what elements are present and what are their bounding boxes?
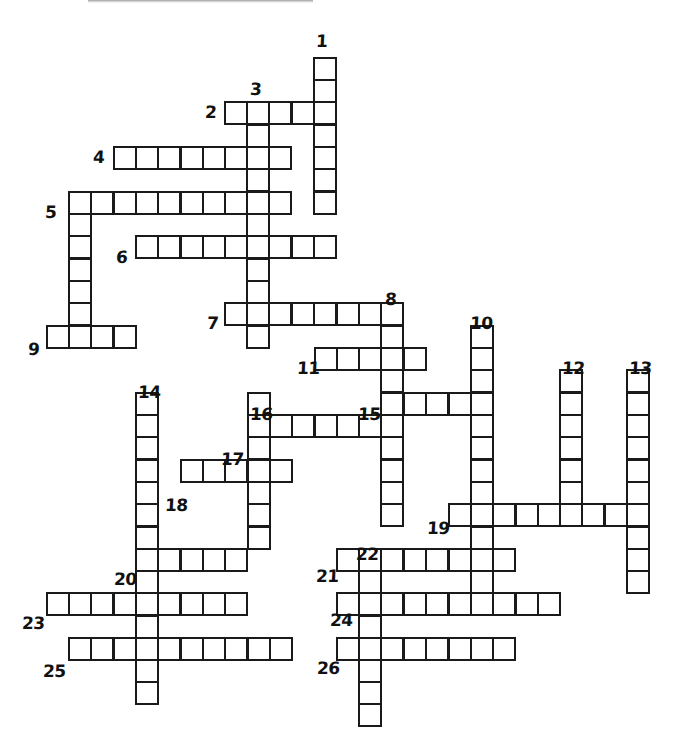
clue-number-14: 14 (138, 384, 162, 401)
clue-number-23: 23 (22, 615, 46, 632)
clue-number-3: 3 (250, 81, 262, 98)
clue-number-8: 8 (385, 291, 397, 308)
clue-number-20: 20 (114, 571, 138, 588)
clue-number-18: 18 (165, 497, 189, 514)
clue-number-4: 4 (93, 149, 105, 166)
clue-number-6: 6 (116, 249, 128, 266)
clue-number-17: 17 (221, 451, 245, 468)
clue-number-15: 15 (358, 406, 382, 423)
clue-number-9: 9 (28, 341, 40, 358)
clue-number-5: 5 (45, 204, 57, 221)
clue-number-11: 11 (297, 360, 321, 377)
clue-number-2: 2 (205, 104, 217, 121)
clue-number-19: 19 (427, 520, 451, 537)
clue-number-24: 24 (330, 612, 354, 629)
clue-number-22: 22 (356, 546, 380, 563)
clue-number-1: 1 (316, 33, 328, 50)
crossword-puzzle: 1234567891011121314151617181920212223242… (0, 0, 673, 753)
clue-number-21: 21 (316, 568, 340, 585)
clue-number-26: 26 (317, 660, 341, 677)
clue-number-10: 10 (470, 315, 494, 332)
clue-number-16: 16 (250, 406, 274, 423)
clue-number-13: 13 (629, 360, 653, 377)
clue-number-12: 12 (562, 360, 586, 377)
clue-number-25: 25 (43, 663, 67, 680)
clue-number-layer: 1234567891011121314151617181920212223242… (0, 0, 673, 753)
clue-number-7: 7 (207, 315, 219, 332)
